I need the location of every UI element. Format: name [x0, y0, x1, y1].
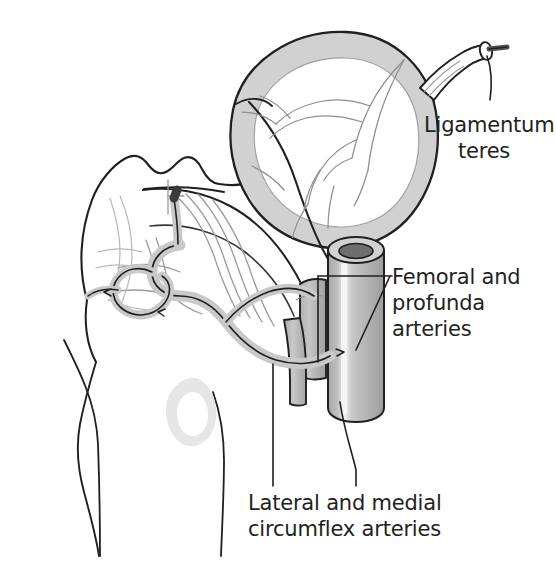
anatomy-figure: Ligamentum teres Femoral and profunda ar… [0, 0, 556, 572]
label-femoral-profunda-arteries: Femoral and profunda arteries [392, 264, 552, 342]
label-lateral-medial-circumflex-arteries: Lateral and medial circumflex arteries [248, 490, 478, 542]
label-ligamentum-teres: Ligamentum teres [424, 112, 544, 164]
femoral-artery [328, 237, 384, 422]
ligamentum-teres [420, 41, 507, 100]
lesser-trochanter [166, 378, 216, 446]
leader-ligamentum-teres [487, 56, 491, 100]
femoral-shaft [64, 340, 224, 556]
